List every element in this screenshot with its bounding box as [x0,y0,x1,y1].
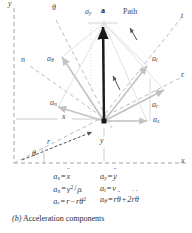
resultant-acceleration-label: a [101,7,105,15]
global-y-axis-label: y [8,0,12,8]
path-pointer-arrow [130,28,137,40]
a-x-component-label: ax [153,116,159,125]
a-n-component-label: an [50,99,57,108]
figure-caption: (b) Acceleration components [12,214,104,223]
a-theta-component-label: aθ [47,55,54,64]
a-y-component-label: ay [85,8,91,17]
a-r-sub: r [156,103,158,109]
a-y-sub: y [89,10,91,16]
a-t-sub: t [156,57,158,63]
a-r-component-label: ar [152,101,158,110]
theta-angle-arc [42,148,44,163]
caption-text: Acceleration components [23,214,105,223]
a-t-component-vector [104,66,147,121]
particle-point-marker [102,119,107,124]
parallelogram-line-t-apex [104,23,147,66]
parallelogram-line-n-apex [58,23,104,107]
equation-atheta: aθ=rθ+2rθ [100,195,139,205]
equations-right-column: ay=y at=v aθ=rθ+2rθ [100,172,139,207]
a-n-sub: n [54,101,57,107]
caption-label: (b) [12,214,21,223]
equation-ax: ax=x [53,172,86,182]
equations-block: ax=x an=v2/ρ ar=r−rθ2 ay=y at=v aθ=rθ+2r… [0,172,192,207]
path-label: Path [123,8,137,16]
r-axis-label: r [181,71,184,79]
inner-direction-arrow [113,76,120,90]
radius-label: r [47,138,50,146]
a-x-sub: x [157,118,159,124]
equations-left-column: ax=x an=v2/ρ ar=r−rθ2 [53,172,86,207]
parallelogram-line-theta-apex [62,23,104,57]
n-axis-label: n [21,56,25,64]
global-x-axis-label: x [181,157,185,165]
theta-axis-label: θ [52,4,56,12]
n-axis-line [30,66,105,119]
equation-ay: ay=y [100,172,139,182]
y-distance-label: y [100,137,104,145]
t-axis-label: t [181,12,183,20]
x-distance-label: x [62,113,66,121]
a-t-component-label: at [152,55,158,64]
angle-theta-label: θ [32,150,36,158]
equation-ar: ar=r−rθ2 [53,196,86,207]
resultant-acceleration-vector [103,27,104,122]
a-theta-component-vector [62,57,104,121]
a-theta-sub: θ [51,57,54,63]
